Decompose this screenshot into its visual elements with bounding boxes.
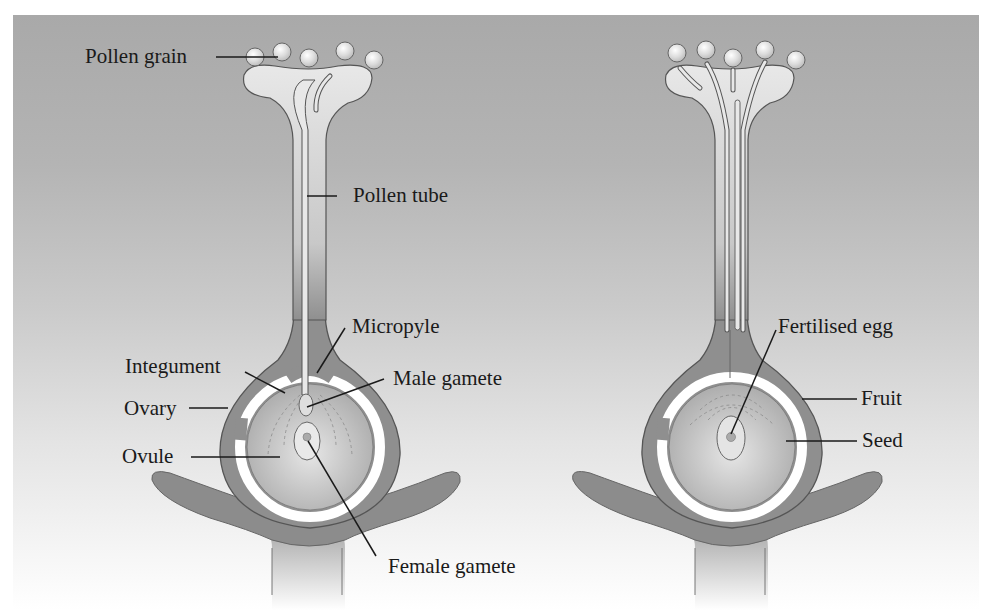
label-micropyle: Micropyle — [352, 316, 439, 337]
label-pollen-tube: Pollen tube — [353, 185, 448, 206]
label-seed: Seed — [862, 430, 903, 451]
label-fertilised-egg: Fertilised egg — [778, 316, 893, 337]
label-integument: Integument — [125, 356, 221, 377]
label-female-gamete: Female gamete — [388, 556, 516, 577]
label-ovule: Ovule — [122, 446, 173, 467]
label-pollen-grain: Pollen grain — [85, 46, 187, 67]
label-fruit: Fruit — [861, 388, 902, 409]
fertilisation-diagram — [0, 0, 990, 610]
label-ovary: Ovary — [124, 398, 176, 419]
label-male-gamete: Male gamete — [393, 368, 502, 389]
style — [666, 65, 794, 320]
